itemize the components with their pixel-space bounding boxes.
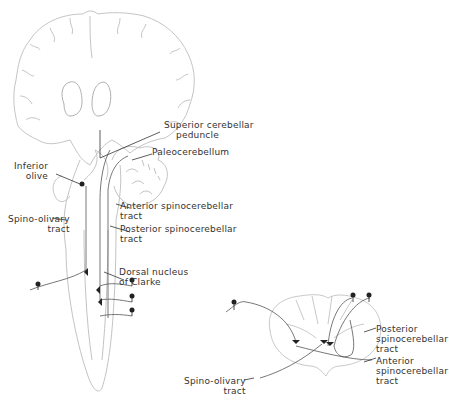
- label-superior-cerebellar-peduncle: Superior cerebellar peduncle: [164, 120, 254, 140]
- label-paleocerebellum: Paleocerebellum: [152, 147, 229, 157]
- label-anterior-spinocerebellar-tract-left: Anterior spinocerebellar tract: [120, 201, 233, 221]
- leader-lines-right: [244, 328, 376, 380]
- label-dorsal-nucleus-of-clarke: Dorsal nucleus of Clarke: [119, 267, 188, 287]
- cerebrum-outline: [14, 11, 194, 165]
- neuron-dots-right: [232, 293, 372, 347]
- lateral-ventricles: [62, 82, 111, 116]
- label-spino-olivary-tract-left: Spino-olivary tract: [8, 214, 70, 234]
- label-inferior-olive: Inferior olive: [14, 161, 48, 181]
- label-anterior-spinocerebellar-tract-right: Anterior spinocerebellar tract: [376, 356, 448, 386]
- label-spino-olivary-tract-right: Spino-olivary tract: [184, 376, 246, 396]
- label-posterior-spinocerebellar-tract-left: Posterior spinocerebellar tract: [120, 224, 237, 244]
- pathway-lines-right: [226, 298, 372, 378]
- spinal-cross-section: [269, 295, 380, 376]
- brainstem-spinal-cord: [64, 150, 121, 391]
- label-posterior-spinocerebellar-tract-right: Posterior spinocerebellar tract: [376, 324, 448, 354]
